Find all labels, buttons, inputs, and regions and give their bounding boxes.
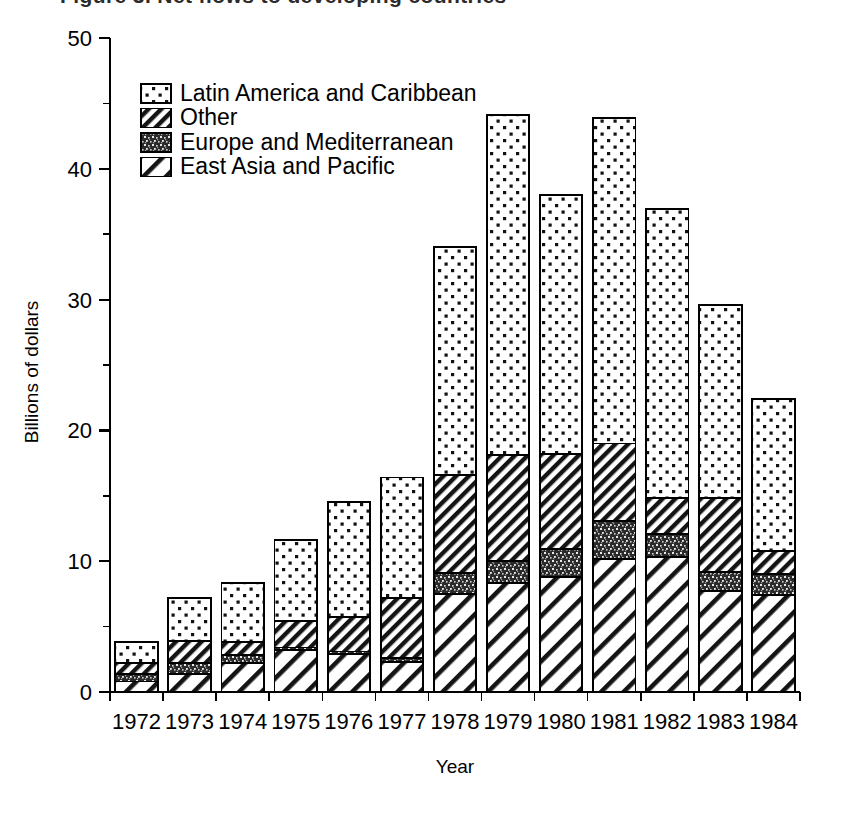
bar-segment bbox=[646, 557, 688, 692]
x-axis-ticks: 1972197319741975197619771978197919801981… bbox=[110, 692, 800, 734]
bar-segment bbox=[487, 455, 529, 561]
bar-segment bbox=[168, 598, 210, 641]
bar-group bbox=[328, 502, 370, 692]
bar-segment bbox=[434, 475, 476, 573]
y-tick-label: 0 bbox=[80, 680, 92, 705]
legend-swatch bbox=[141, 133, 171, 152]
bar-segment bbox=[115, 663, 157, 673]
bar-group bbox=[699, 305, 741, 692]
legend-label: East Asia and Pacific bbox=[180, 153, 395, 179]
bar-segment bbox=[275, 621, 317, 647]
bar-segment bbox=[487, 115, 529, 455]
x-tick-label: 1981 bbox=[590, 709, 639, 734]
bar-segment bbox=[275, 540, 317, 621]
bar-segment bbox=[434, 594, 476, 692]
bar-group bbox=[221, 583, 263, 692]
bar-segment bbox=[646, 498, 688, 533]
x-tick-label: 1972 bbox=[112, 709, 161, 734]
x-tick-label: 1975 bbox=[271, 709, 320, 734]
bar-segment bbox=[221, 655, 263, 663]
bar-segment bbox=[115, 642, 157, 663]
bar-segment bbox=[381, 598, 423, 658]
x-tick-label: 1979 bbox=[484, 709, 533, 734]
chart-legend: Latin America and CaribbeanOtherEurope a… bbox=[141, 80, 477, 180]
bar-group bbox=[115, 642, 157, 692]
figure-container: Figure 3. Net flows to developing countr… bbox=[0, 0, 843, 817]
legend-label: Latin America and Caribbean bbox=[180, 80, 477, 106]
y-tick-label: 50 bbox=[68, 26, 92, 51]
legend-swatch bbox=[141, 158, 171, 177]
legend-label: Europe and Mediterranean bbox=[180, 129, 454, 155]
bar-segment bbox=[221, 663, 263, 692]
bar-segment bbox=[752, 574, 794, 595]
bar-segment bbox=[328, 617, 370, 651]
bar-group bbox=[593, 118, 635, 692]
bar-segment bbox=[434, 247, 476, 475]
bar-segment bbox=[168, 641, 210, 663]
bar-segment bbox=[646, 209, 688, 498]
legend-swatch bbox=[141, 109, 171, 128]
bar-segment bbox=[699, 591, 741, 692]
bar-group bbox=[752, 399, 794, 692]
bar-segment bbox=[168, 663, 210, 673]
legend-label: Other bbox=[180, 104, 238, 130]
bar-segment bbox=[593, 521, 635, 559]
plot-area bbox=[115, 115, 794, 692]
bar-segment bbox=[275, 650, 317, 692]
bar-group bbox=[381, 477, 423, 692]
y-tick-label: 20 bbox=[68, 418, 92, 443]
bar-group bbox=[168, 598, 210, 692]
y-tick-label: 10 bbox=[68, 549, 92, 574]
bar-segment bbox=[221, 583, 263, 642]
bar-segment bbox=[115, 682, 157, 692]
bar-segment bbox=[646, 534, 688, 558]
bar-segment bbox=[540, 195, 582, 454]
bar-segment bbox=[381, 477, 423, 597]
y-tick-label: 40 bbox=[68, 157, 92, 182]
x-tick-label: 1983 bbox=[696, 709, 745, 734]
x-axis-title: Year bbox=[436, 756, 475, 777]
x-tick-label: 1980 bbox=[537, 709, 586, 734]
bar-group bbox=[540, 195, 582, 692]
y-axis-ticks: 01020304050 bbox=[68, 26, 110, 705]
y-axis-title: Billions of dollars bbox=[21, 301, 42, 444]
bar-segment bbox=[540, 549, 582, 576]
bar-segment bbox=[168, 674, 210, 692]
x-tick-label: 1982 bbox=[643, 709, 692, 734]
x-tick-label: 1973 bbox=[165, 709, 214, 734]
bar-segment bbox=[221, 642, 263, 655]
bar-segment bbox=[699, 305, 741, 499]
bar-segment bbox=[328, 654, 370, 692]
bar-segment bbox=[540, 454, 582, 549]
bar-segment bbox=[752, 399, 794, 551]
bar-group bbox=[487, 115, 529, 692]
x-tick-label: 1978 bbox=[431, 709, 480, 734]
bar-segment bbox=[328, 502, 370, 617]
bar-segment bbox=[115, 674, 157, 682]
x-tick-label: 1977 bbox=[377, 709, 426, 734]
bar-segment bbox=[593, 443, 635, 520]
x-tick-label: 1984 bbox=[749, 709, 798, 734]
bar-segment bbox=[699, 572, 741, 592]
bar-segment bbox=[434, 573, 476, 594]
bar-group bbox=[434, 247, 476, 692]
bar-segment bbox=[487, 583, 529, 692]
y-tick-label: 30 bbox=[68, 288, 92, 313]
bar-segment bbox=[593, 559, 635, 692]
stacked-bar-chart: 01020304050 1972197319741975197619771978… bbox=[0, 0, 843, 817]
bar-segment bbox=[487, 561, 529, 583]
x-tick-label: 1974 bbox=[218, 709, 267, 734]
bar-segment bbox=[381, 662, 423, 692]
bar-segment bbox=[752, 551, 794, 575]
bar-segment bbox=[540, 577, 582, 692]
bar-segment bbox=[752, 595, 794, 692]
bar-segment bbox=[699, 498, 741, 571]
bar-group bbox=[646, 209, 688, 692]
legend-swatch bbox=[141, 84, 171, 103]
x-tick-label: 1976 bbox=[324, 709, 373, 734]
bar-group bbox=[275, 540, 317, 692]
bar-segment bbox=[593, 118, 635, 444]
